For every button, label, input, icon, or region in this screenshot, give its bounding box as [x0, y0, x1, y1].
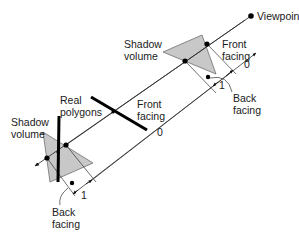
dim-arrow [86, 180, 92, 184]
viewpoint-dot [248, 13, 254, 19]
label-real-polygons: Real polygons [60, 94, 102, 118]
intersection-dot [204, 41, 209, 46]
count-axis-inner [73, 73, 230, 194]
label-shadow-volume-top: Shadow volume [124, 38, 162, 62]
count-top-zero: 0 [244, 58, 250, 70]
label-shadow-volume-bottom: Shadow volume [11, 116, 49, 140]
dim-arrow [213, 82, 218, 86]
intersection-dot [111, 110, 114, 113]
dim-arrow [73, 190, 78, 194]
shadow-volume-lower [43, 132, 93, 182]
leader-back-facing-bottom [60, 188, 68, 205]
label-back-facing-top: Back facing [233, 92, 261, 116]
label-back-facing-bottom: Back facing [52, 206, 80, 230]
intersection-dot [63, 142, 68, 147]
label-viewpoint: Viewpoint [257, 10, 299, 22]
count-middle-zero: 0 [157, 126, 163, 138]
back-face-dot [70, 181, 74, 185]
shadow-volume-upper [163, 35, 216, 74]
count-top-one: 1 [219, 79, 225, 91]
label-front-facing-middle: Front facing [137, 98, 165, 122]
dim-arrow [226, 70, 233, 76]
intersection-dot [182, 58, 187, 63]
back-face-dot [206, 75, 210, 79]
intersection-dot [56, 150, 59, 153]
real-polygon-lower [58, 116, 59, 182]
count-bottom-one: 1 [81, 189, 87, 201]
intersection-dot [44, 155, 49, 160]
